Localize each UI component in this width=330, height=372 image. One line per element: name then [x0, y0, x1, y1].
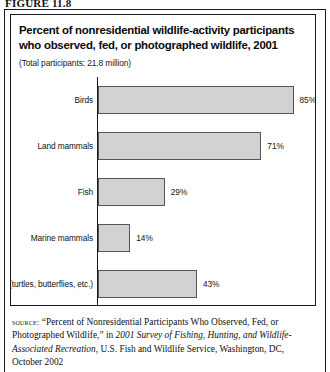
- figure-number: FIGURE 11.8: [5, 0, 71, 9]
- bar: [98, 86, 294, 114]
- bar-value-label: 14%: [136, 233, 153, 243]
- bar-value-label: 29%: [171, 187, 188, 197]
- bar-category-label: Birds: [10, 95, 93, 105]
- bar-category-label: Marine mammals: [10, 233, 93, 243]
- figure-page: FIGURE 11.8 Percent of nonresidential wi…: [0, 0, 330, 372]
- source-kicker: source:: [12, 317, 39, 327]
- bar-value-label: 43%: [203, 279, 220, 289]
- bar-row: Fish29%: [11, 169, 316, 215]
- bar-value-label: 85%: [300, 95, 317, 105]
- plot-area: Birds85%Land mammals71%Fish29%Marine mam…: [11, 77, 316, 306]
- bar-value-label: 71%: [267, 141, 284, 151]
- chart-subtitle: (Total participants: 21.8 million): [19, 58, 131, 68]
- bar-category-label: Fish: [10, 187, 93, 197]
- bar: [98, 270, 197, 298]
- bar-row: Land mammals71%: [11, 123, 316, 169]
- chart-panel: Percent of nonresidential wildlife-activ…: [10, 14, 316, 306]
- bar: [98, 132, 261, 160]
- bar-category-label: Land mammals: [10, 141, 93, 151]
- chart-title: Percent of nonresidential wildlife-activ…: [19, 23, 309, 52]
- bar-row: Marine mammals14%: [11, 215, 316, 261]
- source-note: source: “Percent of Nonresidential Parti…: [12, 316, 312, 369]
- bar-category-label: Other (turtles, butterflies, etc.): [10, 279, 93, 289]
- bar-row: Birds85%: [11, 77, 316, 123]
- bar-row: Other (turtles, butterflies, etc.)43%: [11, 261, 316, 306]
- bar: [98, 178, 165, 206]
- bar: [98, 224, 130, 252]
